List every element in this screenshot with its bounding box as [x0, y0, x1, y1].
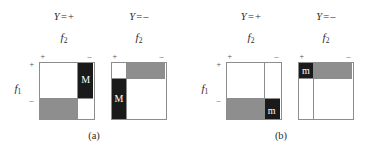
tick-minus: –: [275, 53, 279, 61]
panel-a-class-labels: Y=+ Y=–: [27, 11, 177, 22]
panel-b-f2-labels: f2 f2: [214, 31, 364, 43]
panel-a-pos-f2-label: f2: [27, 31, 102, 43]
quadrant-br: [78, 99, 94, 119]
quadrant-br: m: [265, 99, 281, 119]
quadrant-label: M: [114, 94, 123, 104]
quadrant-br: [314, 79, 352, 119]
panel-a-label-negative: Y=–: [102, 11, 177, 22]
panel-a: Y=+ Y=– f2 f2 f1 + –: [1, 0, 188, 156]
panel-a-pos-column-ticks: + –: [39, 52, 95, 62]
quadrant-br: [127, 79, 165, 119]
panel-b-caption: (b): [188, 130, 375, 141]
quadrant-tl: [227, 63, 265, 99]
tick-minus: –: [160, 53, 164, 61]
panel-b-neg-column-ticks: + –: [298, 52, 354, 62]
panel-a-neg-square-wrap: + – M: [111, 62, 167, 120]
tick-plus: +: [300, 53, 305, 61]
feature-space-square-a-negative: M: [111, 62, 167, 120]
panel-b-squares: + – + – m +: [188, 62, 375, 122]
quadrant-bl: [227, 99, 265, 119]
panel-a-neg-f2-label: f2: [102, 31, 177, 43]
tick-minus: –: [347, 53, 351, 61]
quadrant-tr: M: [78, 63, 94, 99]
feature-space-square-b-negative: m: [298, 62, 354, 120]
panel-a-squares: + – + – M +: [1, 62, 188, 122]
panel-a-caption: (a): [1, 130, 188, 141]
quadrant-label: m: [302, 66, 310, 76]
tick-plus: +: [113, 53, 118, 61]
panel-a-label-positive: Y=+: [27, 11, 102, 22]
panel-b-neg-square-wrap: + – m: [298, 62, 354, 120]
quadrant-tl: [40, 63, 78, 99]
figure-container: Y=+ Y=– f2 f2 f1 + –: [0, 0, 375, 156]
quadrant-label: m: [268, 106, 276, 116]
panel-b-pos-f2-label: f2: [214, 31, 289, 43]
panel-b-neg-f2-label: f2: [289, 31, 364, 43]
panel-b-pos-square-wrap: + – + – m: [226, 62, 282, 120]
tick-plus: +: [30, 61, 35, 69]
panel-b-label-positive: Y=+: [214, 11, 289, 22]
tick-plus: +: [41, 53, 46, 61]
tick-minus: –: [30, 97, 34, 105]
quadrant-tr: [265, 63, 281, 99]
tick-plus: +: [228, 53, 233, 61]
feature-space-square-b-positive: m: [226, 62, 282, 120]
tick-plus: +: [217, 61, 222, 69]
tick-minus: –: [217, 97, 221, 105]
panel-b-pos-column-ticks: + –: [226, 52, 282, 62]
feature-space-square-a-positive: M: [39, 62, 95, 120]
quadrant-tl: m: [299, 63, 315, 79]
quadrant-tr: [314, 63, 352, 79]
panel-b-label-negative: Y=–: [289, 11, 364, 22]
tick-minus: –: [88, 53, 92, 61]
panel-a-row-ticks: + –: [30, 62, 39, 120]
quadrant-tr: [127, 63, 165, 79]
quadrant-bl: M: [112, 79, 128, 119]
quadrant-tl: [112, 63, 128, 79]
panel-a-pos-square-wrap: + – + – M: [39, 62, 95, 120]
panel-b: Y=+ Y=– f2 f2 f1 + –: [188, 0, 375, 156]
panel-a-neg-column-ticks: + –: [111, 52, 167, 62]
panel-b-row-ticks: + –: [217, 62, 226, 120]
quadrant-bl: [40, 99, 78, 119]
quadrant-bl: [299, 79, 315, 119]
quadrant-label: M: [81, 75, 90, 85]
panel-b-class-labels: Y=+ Y=–: [214, 11, 364, 22]
panel-a-f2-labels: f2 f2: [27, 31, 177, 43]
